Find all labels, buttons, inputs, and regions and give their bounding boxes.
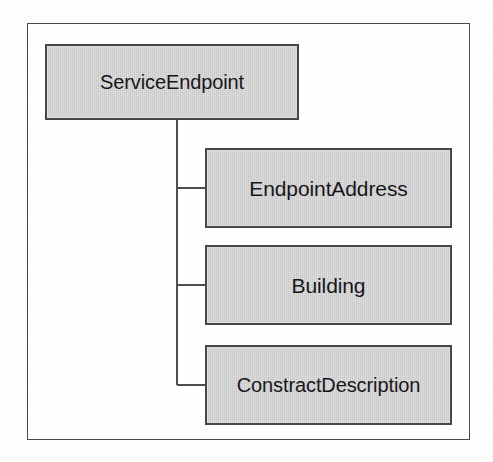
diagram-canvas: ServiceEndpoint EndpointAddress Building… (0, 0, 493, 462)
node-label: ConstractDescription (237, 375, 421, 395)
node-building[interactable]: Building (205, 245, 452, 325)
node-label: ServiceEndpoint (100, 72, 244, 92)
node-constract-description[interactable]: ConstractDescription (205, 345, 452, 425)
node-label: EndpointAddress (249, 178, 407, 199)
node-endpoint-address[interactable]: EndpointAddress (205, 148, 452, 228)
node-service-endpoint[interactable]: ServiceEndpoint (45, 44, 299, 120)
node-label: Building (292, 275, 366, 296)
